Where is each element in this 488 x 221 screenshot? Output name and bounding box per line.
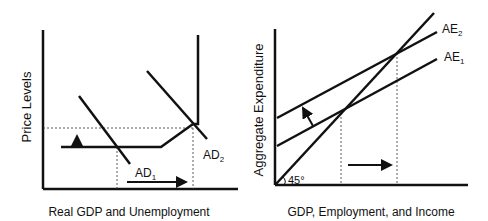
price-levels-axis-label: Price Levels: [19, 71, 34, 142]
ad-as-panel: AD1 AD2 Price Levels Real GDP and Unempl…: [19, 30, 238, 219]
ad1-curve: [79, 96, 130, 164]
ae1-label: AE1: [444, 50, 465, 66]
ae1-line: [277, 59, 437, 146]
aggregate-expenditure-panel: 45° AE2 AE1 Aggregate Expenditure GDP, E…: [251, 13, 468, 219]
ae2-label: AE2: [442, 22, 463, 38]
economics-diagram: AD1 AD2 Price Levels Real GDP and Unempl…: [0, 0, 488, 221]
ae2-line: [277, 32, 437, 118]
ad2-label: AD2: [203, 148, 225, 164]
gdp-employment-income-axis-label: GDP, Employment, and Income: [287, 205, 455, 219]
real-gdp-axis-label: Real GDP and Unemployment: [48, 205, 210, 219]
angle-45-label: 45°: [288, 174, 305, 186]
ad1-label: AD1: [135, 166, 157, 182]
45-degree-line: [276, 13, 434, 184]
aggregate-expenditure-axis-label: Aggregate Expenditure: [251, 44, 266, 177]
aggregate-supply-curve: [61, 35, 198, 147]
ae-shift-arrow-icon: [303, 108, 313, 126]
